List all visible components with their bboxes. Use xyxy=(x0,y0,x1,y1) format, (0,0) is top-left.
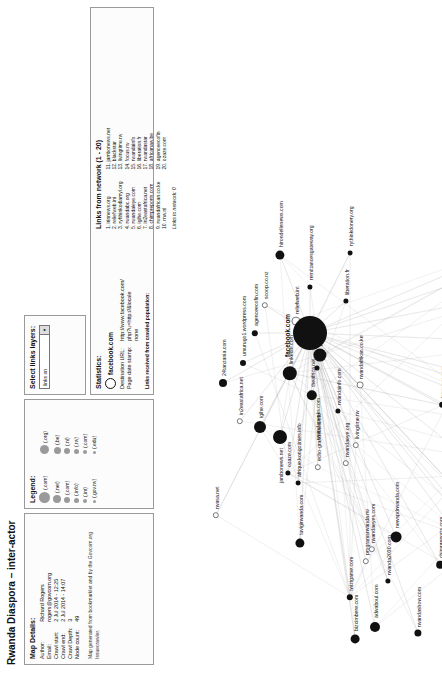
legend-node-icon xyxy=(40,445,49,454)
graph-node[interactable] xyxy=(254,421,266,433)
link-list-item[interactable]: 18. africanaw.be xyxy=(148,128,154,170)
legend-node-icon xyxy=(53,495,61,503)
graph-node[interactable] xyxy=(348,251,353,256)
legend-heading: Legend: xyxy=(29,405,36,503)
graph-node-label: rwandainfo.com xyxy=(336,368,342,405)
graph-edge xyxy=(318,467,442,543)
graph-node-label: in2eastafrica.net xyxy=(238,377,244,415)
graph-edge xyxy=(366,401,442,561)
legend-item: (.edu) xyxy=(91,408,97,454)
links-list-column-2: 11. jambonews.net12. blackstar13. living… xyxy=(105,128,167,170)
links-received-heading: Links received from crawled population: xyxy=(144,239,151,389)
chevron-down-icon[interactable]: ▼ xyxy=(40,326,49,335)
graph-node-label: rythinkdonery.org xyxy=(348,206,354,246)
graph-edge xyxy=(243,363,312,395)
graph-edge xyxy=(310,333,442,405)
rotated-page-canvas: Rwanda Diaspora – inter-actor Map Detail… xyxy=(0,0,442,673)
graph-edge xyxy=(310,295,442,333)
graph-node-label: rwandashow.com xyxy=(416,587,422,627)
links-list-column-1: 1. irinnews.org2. reliefweb.int3. ryhhin… xyxy=(105,181,167,229)
graph-edge xyxy=(310,333,396,537)
map-detail-label: Crawl end: xyxy=(60,622,67,659)
map-details-footnote: Map generated from bookmarklet and by th… xyxy=(87,519,100,659)
graph-node-label: ozaze.com xyxy=(286,442,292,467)
legend-items: (.com)(.org)(.net)(.be)(.com)(.nl)(.info… xyxy=(39,405,97,503)
map-detail-label: Crawl start: xyxy=(53,622,60,659)
graph-node-label: theafrica.net xyxy=(310,358,316,387)
graph-node-label: tuvigirwanda.com xyxy=(298,495,304,535)
map-detail-label: Email: xyxy=(46,622,53,659)
legend-node-icon xyxy=(54,447,61,454)
graph-node[interactable] xyxy=(370,622,380,632)
legend-item: (.be) xyxy=(54,408,61,454)
map-details-table: Author:Richard RogersEmail:rogers@govcom… xyxy=(39,567,81,659)
map-detail-value: 49 xyxy=(74,567,81,622)
legend-node-icon xyxy=(83,499,87,503)
statistics-meta-table: Destination URL:http://www.facebook.com/… xyxy=(119,273,140,389)
graph-node-label: echo-grandslacs.info xyxy=(316,413,322,461)
map-detail-row: Crawl end:2 Jul 2014 - 14:07 xyxy=(60,567,67,659)
graph-node-label: agenceecofin.com xyxy=(253,284,259,326)
map-detail-row: Author:Richard Rogers xyxy=(39,567,46,659)
legend-item-label: (.int) xyxy=(82,487,88,497)
statistics-heading: Statistics: xyxy=(95,239,102,389)
statistics-hub-name: facebook.com xyxy=(107,332,114,375)
legend-item-label: (.gov.rw) xyxy=(91,479,97,498)
info-strip: Rwanda Diaspora – inter-actor Map Detail… xyxy=(0,0,160,673)
legend-node-icon xyxy=(83,450,87,454)
graph-node[interactable] xyxy=(351,635,360,644)
link-list-item[interactable]: 8. chimpreports.com xyxy=(148,181,154,229)
graph-edge xyxy=(280,255,310,287)
graph-node-label: remittancesgateway.org xyxy=(308,225,314,280)
legend-item-label: (.com) xyxy=(82,434,88,448)
legend-node-icon xyxy=(64,497,70,503)
graph-node-label: livingtime.rw xyxy=(354,410,360,439)
graph-node[interactable] xyxy=(296,481,301,486)
network-graph[interactable]: rwandapeaks.comrwandashow.combizcimbere.… xyxy=(160,0,442,673)
graph-node-label: twizigame.com xyxy=(348,557,354,591)
graph-node-label: 24tanzania.com xyxy=(221,339,227,376)
map-detail-value: Richard Rogers xyxy=(39,567,46,622)
legend-item-label: (.info) xyxy=(73,483,79,496)
statistics-label: Page date stamp: xyxy=(126,341,133,389)
legend-node-icon xyxy=(74,498,79,503)
graph-node-label: bizcimbere.com xyxy=(353,595,359,631)
graph-node[interactable] xyxy=(436,561,442,569)
graph-edge xyxy=(216,515,350,597)
link-list-item[interactable]: 13. livingtime.rw xyxy=(117,128,123,170)
graph-node[interactable] xyxy=(219,379,227,387)
statistics-label: Destination URL: xyxy=(119,341,126,389)
legend-item: (.net) xyxy=(53,457,61,503)
links-layers-panel: Select links layers: links on ▼ xyxy=(24,315,86,395)
graph-node[interactable] xyxy=(240,360,246,366)
graph-edge xyxy=(312,395,442,431)
graph-edge xyxy=(296,239,442,321)
legend-item: (.org) xyxy=(40,408,49,454)
links-layers-select[interactable]: links on ▼ xyxy=(39,325,50,389)
graph-node-label: adwaboul.com xyxy=(373,585,379,618)
graph-node-label: rwanda2030.com xyxy=(386,535,392,575)
statistics-value: http://www.facebook.com/ xyxy=(119,273,126,340)
legend-node-icon xyxy=(64,448,70,454)
graph-node[interactable] xyxy=(273,430,287,444)
graph-edge xyxy=(310,333,442,381)
map-detail-value: 3 xyxy=(67,567,74,622)
graph-hub-node[interactable] xyxy=(293,316,327,350)
map-detail-row: Node count:49 xyxy=(74,567,81,659)
graph-node-label: newspdrwanda.com xyxy=(394,482,400,528)
map-detail-row: Crawl start:2 Jul 2014 - 12:25 xyxy=(53,567,60,659)
link-list-item[interactable]: 3. ryhhinkodlamyl.org xyxy=(117,181,123,229)
legend-item: (.int) xyxy=(82,457,88,503)
legend-item-label: (.rw) xyxy=(73,437,79,447)
legend-item: (.gov.rw) xyxy=(91,457,97,503)
statistics-panel: Statistics: facebook.com Destination URL… xyxy=(90,7,154,395)
links-layers-selected-value: links on xyxy=(42,335,48,388)
legend-item-label: (.com) xyxy=(64,481,70,495)
graph-node-label: rwandaeyes.com xyxy=(370,504,376,543)
graph-node[interactable] xyxy=(357,382,364,389)
map-detail-value: 2 Jul 2014 - 14:07 xyxy=(60,567,67,622)
graph-node[interactable] xyxy=(391,532,402,543)
legend-item: (.nl) xyxy=(64,408,70,454)
page-title: Rwanda Diaspora – inter-actor xyxy=(6,521,17,665)
graph-node-label: jambonews.net xyxy=(278,448,284,483)
